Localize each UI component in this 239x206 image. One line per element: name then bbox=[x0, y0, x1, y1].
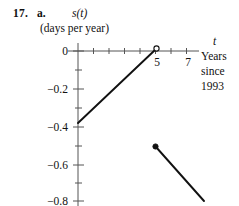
filled-dot-endpoint bbox=[153, 144, 158, 149]
data-segment-1 bbox=[78, 50, 155, 123]
plot-area bbox=[0, 0, 239, 206]
open-circle-endpoint bbox=[154, 46, 159, 51]
data-segment-2 bbox=[156, 147, 204, 201]
figure-container: 17. a. s(t) (days per year) t Years sinc… bbox=[0, 0, 239, 206]
